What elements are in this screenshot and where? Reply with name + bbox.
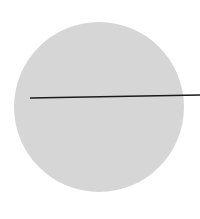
diagram-canvas: [0, 0, 200, 219]
gray-circle: [14, 22, 184, 192]
